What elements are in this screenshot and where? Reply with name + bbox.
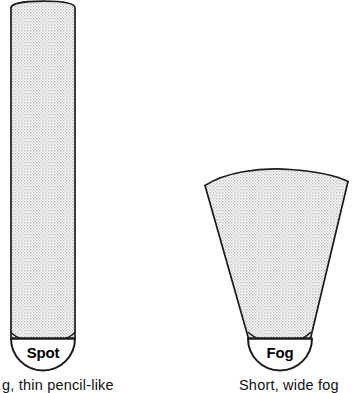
spot-caption: g, thin pencil-like (2, 377, 114, 393)
fog-caption: Short, wide fog (239, 377, 339, 393)
fog-lens-label: Fog (267, 344, 294, 361)
spot-lens-label: Spot (27, 344, 60, 361)
fog-lens-group: Fog (248, 339, 312, 371)
spot-lens-group: Spot (11, 339, 75, 371)
